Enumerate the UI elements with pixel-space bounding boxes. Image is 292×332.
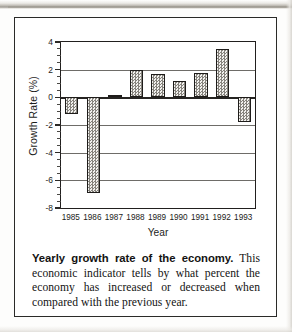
y-axis-minor-tick (57, 62, 61, 63)
figure-border-box: Growth Rate (%) 420-2-4-6-8 Year 1985198… (14, 17, 277, 317)
y-axis-tick (55, 180, 61, 181)
y-axis-minor-tick (57, 83, 61, 84)
bar (173, 81, 186, 98)
caption-lead: Yearly growth rate of the economy. (32, 252, 233, 264)
bar (194, 73, 207, 97)
y-axis-tick-label: -2 (46, 120, 53, 130)
figure-page: Growth Rate (%) 420-2-4-6-8 Year 1985198… (0, 0, 292, 332)
bar (108, 95, 121, 98)
y-axis-minor-tick (57, 194, 61, 195)
x-axis-tick-label: 1993 (234, 213, 252, 222)
figure-caption: Yearly growth rate of the economy. This … (32, 251, 260, 310)
x-axis-tick-label: 1989 (148, 213, 166, 222)
x-axis-tick-label: 1990 (169, 213, 187, 222)
y-axis-minor-tick (57, 131, 61, 132)
y-axis-tick (55, 41, 61, 42)
bar (238, 97, 251, 122)
y-axis-minor-tick (57, 159, 61, 160)
y-axis-tick-label: 2 (48, 65, 53, 75)
y-axis-minor-tick (57, 48, 61, 49)
x-axis-tick-label: 1986 (83, 213, 101, 222)
y-axis-tick (55, 97, 61, 98)
y-axis-minor-tick (57, 118, 61, 119)
y-axis-minor-tick (57, 90, 61, 91)
y-axis-tick-label: -4 (46, 148, 53, 158)
scan-artifact-bottom (0, 326, 292, 332)
y-axis-minor-tick (57, 166, 61, 167)
bar (87, 97, 100, 192)
plot-area: 420-2-4-6-8 (60, 41, 256, 209)
bar (65, 97, 78, 114)
scan-artifact-line (8, 6, 292, 8)
y-axis-minor-tick (57, 187, 61, 188)
y-axis-minor-tick (57, 111, 61, 112)
x-axis-tick-label: 1992 (213, 213, 231, 222)
bar-chart: Growth Rate (%) 420-2-4-6-8 Year 1985198… (15, 18, 276, 240)
y-axis-minor-tick (57, 55, 61, 56)
y-axis-tick (55, 152, 61, 153)
y-axis-minor-tick (57, 104, 61, 105)
scan-artifact-right (286, 0, 292, 332)
y-axis-tick (55, 124, 61, 125)
bar (216, 49, 229, 97)
x-axis-tick-label: 1987 (105, 213, 123, 222)
bar (151, 74, 164, 98)
y-axis-tick (55, 207, 61, 208)
y-axis-minor-tick (57, 76, 61, 77)
y-axis-minor-tick (57, 201, 61, 202)
x-axis-tick-label: 1985 (62, 213, 80, 222)
x-axis-tick-label: 1988 (126, 213, 144, 222)
y-axis-tick-label: 0 (48, 92, 53, 102)
y-axis-tick (55, 69, 61, 70)
y-axis-minor-tick (57, 145, 61, 146)
y-axis-tick-label: -8 (46, 203, 53, 213)
y-axis-tick-label: 4 (48, 37, 53, 47)
y-axis-tick-label: -6 (46, 175, 53, 185)
x-axis-title: Year (60, 227, 256, 238)
bar (130, 70, 143, 98)
x-axis-tick-label: 1991 (191, 213, 209, 222)
y-axis-minor-tick (57, 173, 61, 174)
y-axis-minor-tick (57, 138, 61, 139)
y-axis-title: Growth Rate (%) (27, 56, 39, 176)
